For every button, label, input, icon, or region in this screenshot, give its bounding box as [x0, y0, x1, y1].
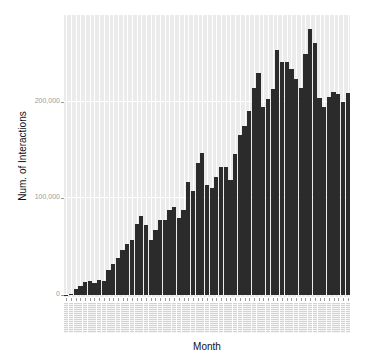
x-tick-label [341, 303, 345, 333]
x-tick-label [107, 303, 111, 333]
x-tick-mark [127, 298, 128, 301]
x-tick-label [332, 303, 336, 333]
x-tick-mark [230, 298, 231, 301]
x-tick-label [271, 303, 275, 333]
x-tick-mark [151, 298, 152, 301]
x-tick-mark [315, 298, 316, 301]
gridline-vertical [104, 15, 105, 297]
x-tick-label [224, 303, 228, 333]
x-tick-label [252, 303, 256, 333]
x-tick-label [92, 303, 96, 333]
x-tick-label [243, 303, 247, 333]
bar [186, 182, 190, 295]
x-tick-label [167, 303, 171, 333]
x-tick-mark [296, 298, 297, 301]
x-tick-mark [169, 298, 170, 301]
x-tick-label [153, 303, 157, 333]
bar [242, 126, 246, 295]
bar [233, 154, 237, 295]
x-tick-mark [85, 298, 86, 301]
bar [261, 107, 265, 295]
x-tick-mark [273, 298, 274, 301]
x-tick-label [88, 303, 92, 333]
bar [205, 185, 209, 295]
x-tick-mark [132, 298, 133, 301]
bar [322, 107, 326, 295]
x-tick-label [294, 303, 298, 333]
bar [163, 220, 167, 295]
bar [219, 167, 223, 295]
bar [313, 43, 317, 295]
bar [294, 79, 298, 295]
x-tick-label [280, 303, 284, 333]
y-tick-mark [61, 295, 64, 296]
bar [135, 224, 139, 295]
x-tick-mark [137, 298, 138, 301]
x-tick-label [233, 303, 237, 333]
x-tick-mark [202, 298, 203, 301]
bar [196, 163, 200, 295]
bar [74, 289, 78, 295]
x-tick-label [182, 303, 186, 333]
gridline-vertical [99, 15, 100, 297]
x-tick-label [336, 303, 340, 333]
x-tick-mark [71, 298, 72, 301]
bar [289, 69, 293, 295]
x-tick-mark [216, 298, 217, 301]
x-tick-label [172, 303, 176, 333]
gridline-vertical [109, 15, 110, 297]
bar [228, 180, 232, 295]
bar [252, 88, 256, 295]
x-tick-label [177, 303, 181, 333]
x-tick-mark [165, 298, 166, 301]
bar [280, 62, 284, 295]
x-tick-label [83, 303, 87, 333]
x-tick-mark [338, 298, 339, 301]
x-tick-mark [310, 298, 311, 301]
x-tick-mark [324, 298, 325, 301]
x-tick-mark [66, 298, 67, 301]
gridline-vertical [113, 15, 114, 297]
x-tick-label [289, 303, 293, 333]
x-tick-label [318, 303, 322, 333]
bar [308, 29, 312, 295]
bar [191, 191, 195, 295]
x-tick-mark [113, 298, 114, 301]
bar [83, 282, 87, 295]
x-tick-label [116, 303, 120, 333]
bar [331, 92, 335, 295]
x-tick-label [64, 303, 68, 333]
plot-panel [64, 15, 350, 297]
x-tick-label [69, 303, 73, 333]
x-tick-label [163, 303, 167, 333]
x-tick-mark [282, 298, 283, 301]
x-axis-tick-labels [64, 303, 350, 333]
x-tick-mark [254, 298, 255, 301]
x-tick-label [121, 303, 125, 333]
x-tick-label [130, 303, 134, 333]
x-tick-mark [188, 298, 189, 301]
bar [210, 188, 214, 295]
gridline-vertical [66, 15, 67, 297]
x-tick-mark [184, 298, 185, 301]
bar [130, 240, 134, 295]
bar [271, 89, 275, 295]
x-tick-mark [221, 298, 222, 301]
bar [247, 111, 251, 295]
bar [181, 210, 185, 295]
x-tick-mark [90, 298, 91, 301]
x-tick-mark [179, 298, 180, 301]
bar [341, 102, 345, 295]
x-tick-mark [287, 298, 288, 301]
x-tick-label [322, 303, 326, 333]
x-tick-mark [291, 298, 292, 301]
bar [92, 283, 96, 295]
x-tick-label [219, 303, 223, 333]
bar [167, 210, 171, 295]
x-tick-label [327, 303, 331, 333]
x-tick-label [346, 303, 350, 333]
x-axis-title: Month [193, 341, 221, 352]
x-tick-label [313, 303, 317, 333]
bar [139, 216, 143, 295]
x-tick-label [125, 303, 129, 333]
